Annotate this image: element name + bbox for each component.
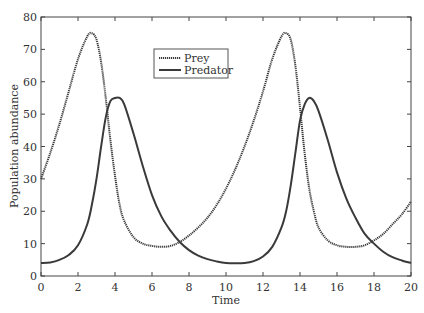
y-tick-label: 60 bbox=[23, 76, 37, 89]
y-tick-label: 70 bbox=[23, 43, 37, 56]
y-tick-label: 0 bbox=[30, 270, 37, 283]
x-tick-label: 18 bbox=[367, 281, 381, 294]
x-tick-label: 20 bbox=[404, 281, 418, 294]
x-tick-label: 2 bbox=[75, 281, 82, 294]
legend-predator-label: Predator bbox=[184, 64, 234, 77]
x-tick-label: 12 bbox=[256, 281, 270, 294]
y-tick-label: 10 bbox=[23, 238, 37, 251]
legend: Prey Predator bbox=[154, 49, 234, 78]
x-tick-label: 10 bbox=[219, 281, 233, 294]
y-tick-labels: 01020304050607080 bbox=[23, 11, 37, 283]
x-tick-label: 16 bbox=[330, 281, 344, 294]
x-tick-label: 0 bbox=[38, 281, 45, 294]
x-tick-label: 14 bbox=[293, 281, 307, 294]
x-axis-label: Time bbox=[212, 294, 240, 307]
x-tick-label: 6 bbox=[149, 281, 156, 294]
y-tick-label: 40 bbox=[23, 141, 37, 154]
y-tick-label: 20 bbox=[23, 205, 37, 218]
x-tick-label: 4 bbox=[112, 281, 119, 294]
x-tick-label: 8 bbox=[186, 281, 193, 294]
y-tick-label: 30 bbox=[23, 173, 37, 186]
population-chart: 02468101214161820 01020304050607080 Time… bbox=[0, 0, 424, 313]
x-tick-labels: 02468101214161820 bbox=[38, 281, 419, 294]
y-axis-label: Population abundance bbox=[8, 84, 21, 208]
y-tick-label: 50 bbox=[23, 108, 37, 121]
y-tick-label: 80 bbox=[23, 11, 37, 24]
